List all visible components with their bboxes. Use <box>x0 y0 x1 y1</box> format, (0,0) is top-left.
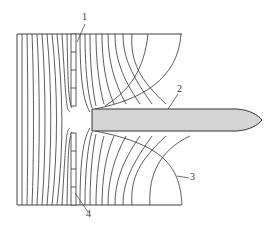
label-3: 3 <box>190 172 195 182</box>
upper-plate <box>71 34 76 106</box>
label-4: 4 <box>86 209 91 219</box>
electrode <box>92 109 262 131</box>
field-lines-right-lower <box>80 128 190 205</box>
field-lines-right-upper <box>80 34 181 112</box>
label-1: 1 <box>82 12 87 22</box>
lower-plate <box>71 133 76 205</box>
label-2: 2 <box>177 84 182 94</box>
field-lines-left <box>22 34 72 205</box>
field-line-diagram: 1 2 3 4 <box>0 0 265 230</box>
diagram-svg <box>0 0 265 230</box>
